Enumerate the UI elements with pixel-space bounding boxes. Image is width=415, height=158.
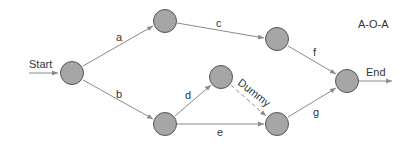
edge-f — [288, 46, 336, 74]
start-label: Start — [29, 58, 52, 70]
aoa-network-diagram: Start End A-O-A a b c d e Dummy f g — [0, 0, 415, 158]
edge-label-b: b — [116, 88, 122, 100]
edge-label-e: e — [217, 126, 223, 138]
node-3 — [154, 113, 177, 136]
node-1 — [61, 62, 84, 85]
edge-g — [288, 88, 336, 117]
node-4 — [210, 66, 233, 89]
edge-label-c: c — [216, 17, 222, 29]
edge-d — [175, 85, 211, 116]
diagram-title: A-O-A — [358, 18, 389, 30]
node-7 — [336, 70, 359, 93]
edge-label-d: d — [185, 89, 191, 101]
node-2 — [154, 10, 177, 33]
node-5 — [266, 28, 289, 51]
end-label: End — [366, 66, 386, 78]
edge-label-a: a — [116, 31, 123, 43]
node-6 — [266, 113, 289, 136]
edge-label-dummy: Dummy — [236, 76, 274, 109]
edge-label-f: f — [313, 46, 317, 58]
edge-label-g: g — [313, 106, 319, 118]
